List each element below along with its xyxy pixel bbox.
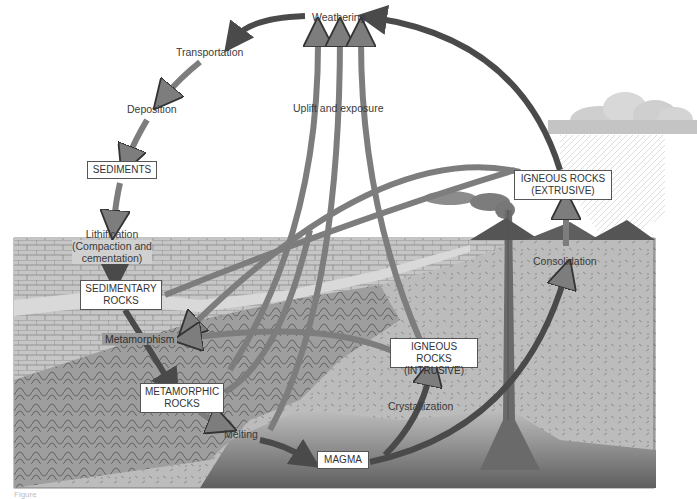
label-consolidation: Consolidation [533,255,597,267]
label-lithification: Lithification (Compaction and cementatio… [72,228,152,264]
label-melting: Melting [224,428,258,440]
transportation-to-deposition-arrow [165,62,200,96]
weathering-to-transportation-arrow [235,16,305,38]
label-crystallization: Crystallization [388,400,453,412]
box-igneous-extrusive: IGNEOUS ROCKS (EXTRUSIVE) [514,170,612,200]
deposition-to-sediments-arrow [128,120,147,158]
figure-caption: Figure [14,490,37,499]
label-weathering: Weathering [312,11,366,23]
box-magma: MAGMA [317,451,369,469]
box-metamorphic-rocks: METAMORPHIC ROCKS [140,383,224,413]
box-igneous-intrusive: IGNEOUS ROCKS (INTRUSIVE) [390,338,478,368]
label-metamorphism: Metamorphism [102,333,177,345]
sediments-to-lithification-arrow [114,183,120,222]
label-deposition: Deposition [127,103,177,115]
extrusive-to-weathering-arrow [375,18,560,170]
label-uplift: Uplift and exposure [293,102,383,114]
box-sedimentary-rocks: SEDIMENTARY ROCKS [80,280,162,310]
box-sediments: SEDIMENTS [87,161,157,179]
label-transportation: Transportation [176,46,243,58]
